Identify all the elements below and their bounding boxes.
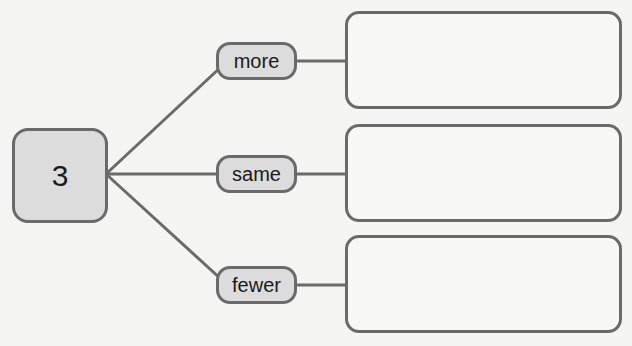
branch-label: more [234, 50, 280, 73]
connector-fewer [106, 174, 222, 280]
branch-same: same [216, 155, 297, 193]
answer-box-more[interactable] [345, 11, 622, 109]
branch-label: fewer [232, 274, 281, 297]
connector-more [106, 66, 222, 174]
center-number-node: 3 [12, 128, 108, 223]
answer-box-same[interactable] [345, 124, 622, 222]
branch-more: more [216, 42, 297, 80]
branch-fewer: fewer [216, 266, 297, 304]
branch-label: same [232, 163, 281, 186]
center-number: 3 [52, 159, 69, 193]
answer-box-fewer[interactable] [345, 235, 622, 333]
